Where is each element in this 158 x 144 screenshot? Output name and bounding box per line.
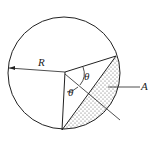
diagram-graphic (0, 0, 158, 144)
radius-label: R (38, 56, 45, 68)
angle-label-1: θ (84, 70, 89, 82)
arrow-head-icon (9, 66, 15, 70)
angle-label-2: θ (68, 86, 73, 98)
circle-segment-diagram: R θ θ A (0, 0, 158, 144)
radius-line-2 (62, 72, 65, 130)
area-label: A (141, 80, 148, 92)
radius-arrow (9, 68, 65, 72)
